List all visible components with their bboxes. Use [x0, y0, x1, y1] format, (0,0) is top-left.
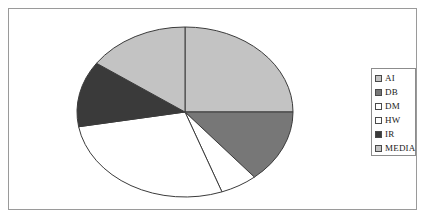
legend-item-dm[interactable]: DM — [375, 99, 415, 113]
legend-item-ai[interactable]: AI — [375, 71, 415, 85]
legend-swatch-db — [375, 89, 382, 96]
legend-swatch-media — [375, 145, 382, 152]
legend-item-ir[interactable]: IR — [375, 127, 415, 141]
pie-slices-group — [77, 27, 293, 197]
legend-swatch-dm — [375, 103, 382, 110]
legend-swatch-ai — [375, 75, 382, 82]
legend-label-dm: DM — [385, 99, 400, 113]
legend-label-hw: HW — [385, 113, 400, 127]
pie-slice-ai[interactable] — [185, 27, 293, 112]
legend-item-media[interactable]: MEDIA — [375, 141, 415, 155]
legend-label-ai: AI — [385, 71, 395, 85]
legend-label-media: MEDIA — [385, 141, 416, 155]
legend-item-db[interactable]: DB — [375, 85, 415, 99]
legend-swatch-hw — [375, 117, 382, 124]
legend-label-db: DB — [385, 85, 398, 99]
pie-plot-area — [8, 8, 417, 210]
legend-swatch-ir — [375, 131, 382, 138]
pie-chart-figure: AI DB DM HW IR MEDIA — [0, 0, 426, 220]
legend-label-ir: IR — [385, 127, 394, 141]
legend: AI DB DM HW IR MEDIA — [371, 68, 416, 156]
legend-item-hw[interactable]: HW — [375, 113, 415, 127]
pie-svg — [8, 8, 417, 210]
